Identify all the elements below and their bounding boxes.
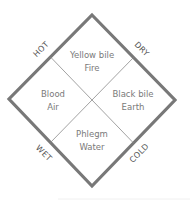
edge-label-dry: DRY bbox=[133, 40, 151, 58]
right-quadrant-line1: Black bile bbox=[112, 89, 153, 99]
edge-label-hot: HOT bbox=[32, 40, 51, 59]
top-quadrant-line2: Fire bbox=[84, 63, 99, 73]
left-quadrant-line1: Blood bbox=[41, 89, 65, 99]
top-quadrant-line1: Yellow bile bbox=[69, 50, 114, 60]
humours-diagram: Yellow bile Fire Blood Air Black bile Ea… bbox=[0, 0, 192, 202]
edge-label-wet: WET bbox=[34, 143, 54, 163]
left-quadrant-line2: Air bbox=[47, 102, 59, 112]
bottom-quadrant-line1: Phlegm bbox=[76, 129, 108, 139]
right-quadrant-line2: Earth bbox=[122, 102, 145, 112]
bottom-quadrant-line2: Water bbox=[79, 142, 105, 152]
